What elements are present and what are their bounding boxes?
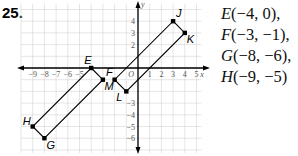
x-tick-label: 3 xyxy=(171,70,175,79)
x-tick-label: 4 xyxy=(183,70,187,79)
y-tick-label: −6 xyxy=(126,134,135,143)
point-label-m: M xyxy=(105,80,115,92)
point-l xyxy=(124,89,128,93)
point-label-k: K xyxy=(187,33,195,45)
y-axis-arrow-down-icon xyxy=(136,147,141,154)
x-tick-label: 2 xyxy=(159,70,163,79)
y-axis-label: y xyxy=(140,0,145,9)
x-tick-label: −9 xyxy=(28,70,37,79)
point-j xyxy=(171,19,175,23)
y-axis-arrow-up-icon xyxy=(136,1,141,8)
x-tick-label: −6 xyxy=(64,70,73,79)
x-axis-label: x xyxy=(199,70,204,79)
tick-labels: −9−8−7−6−512345432−3−4−5−6xyO xyxy=(28,0,204,143)
coordinate-h: H(−9, −5) xyxy=(221,66,291,87)
origin-label: O xyxy=(128,70,134,79)
x-tick-label: 1 xyxy=(148,70,152,79)
point-h xyxy=(31,124,35,128)
x-axis-arrow-left-icon xyxy=(17,66,24,71)
y-tick-label: −3 xyxy=(126,99,135,108)
x-axis-arrow-right-icon xyxy=(203,66,210,71)
coordinate-g: G(−8, −6), xyxy=(221,45,291,66)
y-tick-label: 3 xyxy=(131,29,135,38)
coordinate-e: E(−4, 0), xyxy=(221,3,291,24)
coordinate-list: E(−4, 0), F(−3, −1), G(−8, −6), H(−9, −5… xyxy=(221,3,291,87)
coordinate-f: F(−3, −1), xyxy=(221,24,291,45)
point-label-l: L xyxy=(116,91,122,103)
x-tick-label: −8 xyxy=(40,70,49,79)
point-label-j: J xyxy=(175,7,182,19)
point-label-h: H xyxy=(23,115,31,127)
y-tick-label: 4 xyxy=(131,17,135,26)
x-tick-label: 5 xyxy=(195,70,199,79)
y-tick-label: 2 xyxy=(131,41,135,50)
point-label-g: G xyxy=(46,139,55,151)
point-label-e: E xyxy=(84,54,92,66)
x-tick-label: −7 xyxy=(52,70,61,79)
y-tick-label: −5 xyxy=(126,123,135,132)
point-labels: EFGHJKLM xyxy=(23,7,195,151)
point-e xyxy=(89,66,93,70)
x-tick-label: −5 xyxy=(75,70,84,79)
y-tick-label: −4 xyxy=(126,111,135,120)
